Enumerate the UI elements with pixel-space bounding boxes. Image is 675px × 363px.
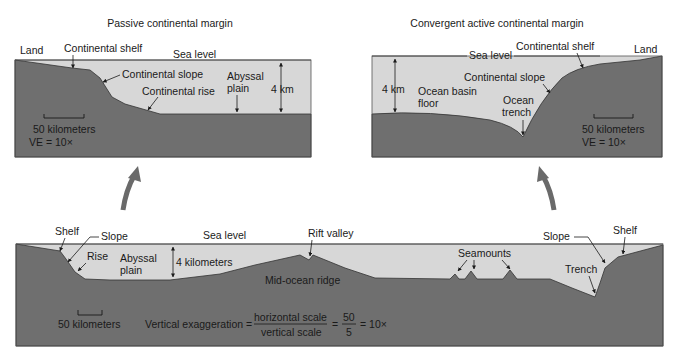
profile-sea-level-label: Sea level xyxy=(203,229,246,241)
passive-land-label: Land xyxy=(20,44,44,56)
passive-abyssal-label-2: plain xyxy=(227,82,249,94)
profile-scale-label: 50 kilometers xyxy=(58,318,120,330)
convergent-basin-label-1: Ocean basin xyxy=(418,85,477,97)
passive-ve-label: VE = 10× xyxy=(29,136,73,148)
convergent-slope-label: Continental slope xyxy=(464,71,545,83)
passive-shelf-label: Continental shelf xyxy=(64,42,142,54)
convergent-margin-panel: Convergent active continental margin Sea… xyxy=(372,17,662,157)
profile-depth-label: 4 kilometers xyxy=(176,256,233,268)
profile-shelf-right-label: Shelf xyxy=(613,224,637,236)
convergent-land-label: Land xyxy=(634,43,658,55)
convergent-trench-label-2: trench xyxy=(502,106,531,118)
convergent-ve-label: VE = 10× xyxy=(582,136,626,148)
right-curved-arrow-icon xyxy=(537,166,554,210)
passive-sea-level-label: Sea level xyxy=(173,48,216,60)
passive-rise-label: Continental rise xyxy=(142,85,215,97)
ve-formula-result: = 10× xyxy=(360,318,387,330)
passive-scale-label: 50 kilometers xyxy=(33,123,95,135)
seamounts-label: Seamounts xyxy=(458,247,511,259)
passive-depth-label: 4 km xyxy=(271,83,294,95)
ocean-profile-panel: Shelf Slope Rise Abyssal plain 4 kilomet… xyxy=(16,224,663,346)
ve-formula-numerator: horizontal scale xyxy=(254,311,327,323)
ve-formula-den2: 5 xyxy=(346,326,352,338)
ve-formula-label: Vertical exaggeration = xyxy=(145,318,252,330)
convergent-basin-label-2: floor xyxy=(418,97,439,109)
passive-margin-title: Passive continental margin xyxy=(107,17,233,29)
convergent-depth-label: 4 km xyxy=(382,83,405,95)
passive-slope-label: Continental slope xyxy=(122,68,203,80)
profile-abyssal-label-2: plain xyxy=(120,264,142,276)
passive-margin-panel: Passive continental margin Land Continen… xyxy=(15,17,311,157)
mid-ocean-ridge-label: Mid-ocean ridge xyxy=(265,274,340,286)
ve-formula-num2: 50 xyxy=(343,311,355,323)
ve-formula-denominator: vertical scale xyxy=(261,326,322,338)
profile-abyssal-label-1: Abyssal xyxy=(120,252,157,264)
rift-valley-label: Rift valley xyxy=(308,227,354,239)
profile-rise-label: Rise xyxy=(87,250,108,262)
ve-formula-equals: = xyxy=(332,318,338,330)
convergent-scale-label: 50 kilometers xyxy=(582,123,644,135)
ocean-floor-diagram: Passive continental margin Land Continen… xyxy=(0,0,675,363)
left-curved-arrow-icon xyxy=(123,166,141,210)
passive-abyssal-label-1: Abyssal xyxy=(227,70,264,82)
profile-shelf-left-label: Shelf xyxy=(55,225,79,237)
convergent-margin-title: Convergent active continental margin xyxy=(410,17,584,29)
convergent-shelf-label: Continental shelf xyxy=(516,40,594,52)
profile-slope-right-label: Slope xyxy=(543,230,570,242)
profile-slope-left-label: Slope xyxy=(101,230,128,242)
trench-label: Trench xyxy=(565,263,597,275)
convergent-sea-level-label: Sea level xyxy=(469,49,512,61)
convergent-trench-label-1: Ocean xyxy=(503,94,534,106)
